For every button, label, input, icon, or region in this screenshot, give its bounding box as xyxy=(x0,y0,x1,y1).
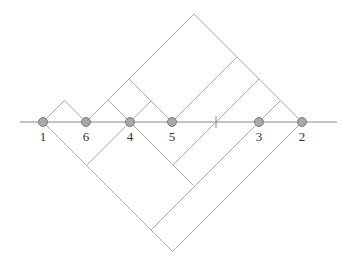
node-label: 4 xyxy=(127,130,134,143)
arc-diagram: 164532 xyxy=(0,0,356,263)
node-marker xyxy=(255,118,264,127)
node-marker xyxy=(82,118,91,127)
node-marker xyxy=(126,118,135,127)
upper-arc xyxy=(86,14,302,122)
node-marker xyxy=(168,118,177,127)
node-marker xyxy=(298,118,307,127)
upper-arc xyxy=(172,57,302,122)
upper-arc xyxy=(86,100,130,122)
upper-arc xyxy=(130,101,172,122)
node-label: 6 xyxy=(83,130,90,143)
node-label: 2 xyxy=(299,130,306,143)
upper-arc xyxy=(216,79,302,122)
upper-arc xyxy=(259,101,302,123)
upper-arc xyxy=(43,101,86,123)
node-label: 3 xyxy=(256,130,263,143)
lower-arc xyxy=(43,122,259,230)
lower-arc xyxy=(130,122,259,187)
node-label: 1 xyxy=(40,130,47,143)
node-marker xyxy=(39,118,48,127)
upper-arc xyxy=(86,79,172,122)
node-label: 5 xyxy=(169,130,176,143)
